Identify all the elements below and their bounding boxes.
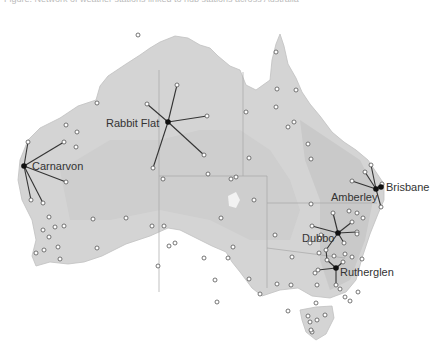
station-marker bbox=[290, 255, 294, 259]
carnarvon-hub-marker bbox=[21, 163, 27, 169]
station-marker bbox=[161, 177, 165, 181]
station-marker bbox=[231, 245, 235, 249]
station-marker bbox=[325, 258, 329, 262]
station-marker bbox=[247, 277, 251, 281]
station-marker bbox=[306, 142, 310, 146]
station-marker bbox=[350, 255, 354, 259]
station-marker bbox=[286, 309, 290, 313]
station-marker bbox=[341, 260, 345, 264]
station-marker bbox=[167, 244, 171, 248]
station-marker bbox=[213, 278, 217, 282]
carnarvon-label: Carnarvon bbox=[32, 160, 83, 172]
station-marker bbox=[62, 140, 66, 144]
station-marker bbox=[58, 257, 62, 261]
station-marker bbox=[91, 217, 95, 221]
rabbit-flat-hub-marker bbox=[165, 119, 171, 125]
station-marker bbox=[64, 180, 68, 184]
station-marker bbox=[64, 123, 68, 127]
station-marker bbox=[47, 215, 51, 219]
station-marker bbox=[286, 125, 290, 129]
station-marker bbox=[273, 233, 277, 237]
station-marker bbox=[34, 251, 38, 255]
station-marker bbox=[226, 256, 230, 260]
station-marker bbox=[324, 248, 328, 252]
station-marker bbox=[323, 313, 327, 317]
station-marker bbox=[56, 245, 60, 249]
station-marker bbox=[314, 301, 318, 305]
rutherglen-hub-marker bbox=[333, 265, 339, 271]
station-marker bbox=[234, 175, 238, 179]
station-marker bbox=[202, 256, 206, 260]
station-marker bbox=[342, 241, 346, 245]
station-marker bbox=[42, 248, 46, 252]
station-marker bbox=[47, 235, 51, 239]
station-marker bbox=[219, 216, 223, 220]
station-marker bbox=[275, 87, 279, 91]
station-marker bbox=[308, 320, 312, 324]
station-marker bbox=[175, 83, 179, 87]
station-marker bbox=[356, 290, 360, 294]
station-marker bbox=[331, 211, 335, 215]
station-marker bbox=[306, 314, 310, 318]
station-marker bbox=[379, 205, 383, 209]
station-marker bbox=[315, 283, 319, 287]
station-marker bbox=[274, 50, 278, 54]
station-marker bbox=[350, 179, 354, 183]
station-marker bbox=[355, 211, 359, 215]
station-marker bbox=[244, 110, 248, 114]
station-marker bbox=[162, 224, 166, 228]
tasmania-outline bbox=[300, 306, 334, 340]
rutherglen-label: Rutherglen bbox=[340, 266, 394, 278]
station-marker bbox=[136, 33, 140, 37]
dubbo-hub-marker bbox=[335, 230, 341, 236]
station-marker bbox=[363, 170, 367, 174]
station-marker bbox=[150, 224, 154, 228]
station-marker bbox=[205, 114, 209, 118]
brisbane-hub-marker bbox=[378, 184, 384, 190]
station-marker bbox=[53, 225, 57, 229]
station-marker bbox=[275, 282, 279, 286]
station-marker bbox=[95, 246, 99, 250]
station-marker bbox=[145, 102, 149, 106]
station-marker bbox=[202, 153, 206, 157]
station-marker bbox=[310, 224, 314, 228]
station-marker bbox=[309, 328, 313, 332]
station-marker bbox=[332, 254, 336, 258]
station-marker bbox=[62, 224, 66, 228]
station-marker bbox=[361, 216, 365, 220]
landmass bbox=[18, 34, 384, 340]
station-marker bbox=[173, 241, 177, 245]
station-marker bbox=[292, 120, 296, 124]
station-marker bbox=[355, 232, 359, 236]
station-marker bbox=[258, 292, 262, 296]
station-marker bbox=[124, 216, 128, 220]
station-marker bbox=[348, 299, 352, 303]
station-marker bbox=[347, 209, 351, 213]
rabbit-flat-label: Rabbit Flat bbox=[106, 117, 159, 129]
station-marker bbox=[343, 252, 347, 256]
station-marker bbox=[206, 172, 210, 176]
australia-station-map: CarnarvonRabbit FlatAmberleyBrisbaneDubb… bbox=[0, 0, 441, 355]
station-marker bbox=[75, 130, 79, 134]
brisbane-label: Brisbane bbox=[386, 181, 429, 193]
station-marker bbox=[215, 300, 219, 304]
station-marker bbox=[309, 157, 313, 161]
station-marker bbox=[289, 283, 293, 287]
station-marker bbox=[313, 271, 317, 275]
station-marker bbox=[317, 251, 321, 255]
station-marker bbox=[29, 198, 33, 202]
station-marker bbox=[294, 88, 298, 92]
station-marker bbox=[369, 163, 373, 167]
station-marker bbox=[74, 145, 78, 149]
station-marker bbox=[41, 228, 45, 232]
station-marker bbox=[41, 201, 45, 205]
dubbo-label: Dubbo bbox=[302, 232, 334, 244]
station-marker bbox=[274, 105, 278, 109]
station-marker bbox=[343, 295, 347, 299]
station-marker bbox=[360, 257, 364, 261]
station-marker bbox=[315, 318, 319, 322]
station-marker bbox=[252, 198, 256, 202]
station-marker bbox=[247, 156, 251, 160]
station-marker bbox=[334, 283, 338, 287]
station-marker bbox=[229, 177, 233, 181]
